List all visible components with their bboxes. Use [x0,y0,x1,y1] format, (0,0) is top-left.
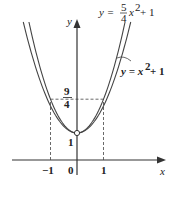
svg-text:+ 1: + 1 [150,65,165,77]
open-circle-marker [74,130,79,135]
y-axis-arrow-icon [74,19,81,28]
tick-one-x: 1 [101,164,107,176]
frac-9-numerator: 9 [64,85,70,97]
svg-text:y = x: y = x [119,65,144,77]
x-axis-arrow-icon [157,157,166,164]
function-graph: y x −1 0 1 1 9 4 y = 5 4 x 2 + 1 y = x 2… [0,0,178,199]
equation-inner: y = 5 4 x 2 + 1 [98,1,154,24]
svg-text:4: 4 [121,12,127,24]
tick-one-y: 1 [68,136,74,148]
label-pointer [117,57,131,61]
frac-4-denominator: 4 [64,98,70,110]
equation-outer: y = x 2 + 1 [119,60,165,77]
tick-minus-one: −1 [42,164,54,176]
y-axis-label: y [66,15,72,27]
svg-text:x: x [128,6,134,18]
x-axis-label: x [159,165,165,177]
svg-text:y =: y = [98,6,114,18]
origin-label: 0 [68,164,74,176]
svg-text:+ 1: + 1 [140,6,154,18]
